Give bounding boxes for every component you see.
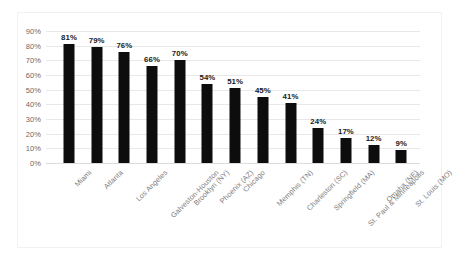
bar-value-label: 12% (366, 134, 382, 143)
bar[interactable] (119, 52, 130, 163)
x-axis-tick-label: Galveston-Houston (169, 168, 221, 220)
bar[interactable] (368, 145, 379, 163)
bar-value-label: 76% (116, 41, 132, 50)
y-axis-tick-label: 30% (26, 115, 41, 124)
bar-value-label: 66% (144, 55, 160, 64)
x-axis-tick-label: Atlanta (102, 168, 125, 191)
x-axis-category-labels: MiamiAtlantaLos AngelesGalveston-Houston… (46, 166, 420, 246)
bar-group[interactable]: 76% (111, 31, 137, 163)
y-axis-tick-label: 0% (30, 159, 41, 168)
bar-group[interactable]: 51% (222, 31, 248, 163)
bar-group[interactable]: 24% (305, 31, 331, 163)
bar-group[interactable]: 70% (167, 31, 193, 163)
plot-area: 90%80%70%60%50%40%30%20%10%0% 81%79%76%6… (46, 31, 420, 163)
bar-value-label: 54% (200, 73, 216, 82)
bar-value-label: 81% (61, 33, 77, 42)
bar-group[interactable]: 41% (278, 31, 304, 163)
bar-group[interactable]: 66% (139, 31, 165, 163)
y-axis-tick-label: 90% (26, 27, 41, 36)
bar[interactable] (174, 60, 185, 163)
bar-group[interactable]: 9% (388, 31, 414, 163)
bar[interactable] (285, 103, 296, 163)
bar-value-label: 24% (310, 117, 326, 126)
bar[interactable] (91, 47, 102, 163)
x-axis-tick-label: Miami (73, 168, 93, 188)
bar-group[interactable]: 54% (194, 31, 220, 163)
y-axis-tick-label: 70% (26, 56, 41, 65)
bar[interactable] (230, 88, 241, 163)
bar-group[interactable]: 81% (56, 31, 82, 163)
bar-value-label: 9% (396, 139, 407, 148)
bar-value-label: 79% (89, 36, 105, 45)
x-axis-tick-label: Omaha (NE) (384, 168, 420, 204)
bar[interactable] (147, 66, 158, 163)
bar[interactable] (257, 97, 268, 163)
bar-group[interactable]: 17% (333, 31, 359, 163)
y-axis-tick-label: 40% (26, 100, 41, 109)
y-axis-tick-label: 80% (26, 41, 41, 50)
y-axis-tick-label: 10% (26, 144, 41, 153)
bar-group[interactable]: 45% (250, 31, 276, 163)
gridline (46, 163, 420, 164)
bar-value-label: 45% (255, 86, 271, 95)
bar[interactable] (64, 44, 75, 163)
bar-value-label: 17% (338, 127, 354, 136)
y-axis-tick-label: 60% (26, 71, 41, 80)
bar[interactable] (396, 150, 407, 163)
y-axis-tick-label: 20% (26, 129, 41, 138)
bar[interactable] (340, 138, 351, 163)
x-axis-tick-label: Los Angeles (134, 168, 169, 203)
bar[interactable] (313, 128, 324, 163)
bar-value-label: 41% (283, 92, 299, 101)
y-axis-tick-label: 50% (26, 85, 41, 94)
bar-series: 81%79%76%66%70%54%51%45%41%24%17%12%9% (46, 31, 420, 163)
bar[interactable] (202, 84, 213, 163)
bar-value-label: 70% (172, 49, 188, 58)
bar-group[interactable]: 12% (361, 31, 387, 163)
bar-group[interactable]: 79% (84, 31, 110, 163)
bar-value-label: 51% (227, 77, 243, 86)
